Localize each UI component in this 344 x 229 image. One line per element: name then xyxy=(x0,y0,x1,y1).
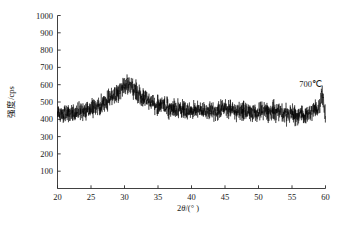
y-tick-label: 800 xyxy=(40,45,53,55)
y-tick-label: 200 xyxy=(40,149,53,159)
x-tick-label: 30 xyxy=(120,192,129,202)
y-axis-title: 强度/cps xyxy=(6,86,16,118)
x-tick-label: 45 xyxy=(221,192,230,202)
y-tick-label: 600 xyxy=(40,80,53,90)
xrd-figure: 1002003004005006007008009001000 20253035… xyxy=(0,0,344,229)
y-tick-label: 100 xyxy=(40,166,53,176)
x-tick-label: 60 xyxy=(321,192,330,202)
y-tick-label: 900 xyxy=(40,28,53,38)
x-tick-label: 50 xyxy=(254,192,263,202)
y-tick-label: 1000 xyxy=(36,11,53,21)
y-tick-label: 300 xyxy=(40,132,53,142)
sample-temperature-annotation: 700℃ xyxy=(299,79,322,89)
y-tick-label: 500 xyxy=(40,97,53,107)
x-tick-label: 55 xyxy=(288,192,297,202)
x-tick-label: 35 xyxy=(154,192,163,202)
x-tick-label: 40 xyxy=(187,192,196,202)
x-tick-label: 25 xyxy=(87,192,96,202)
y-tick-label: 400 xyxy=(40,114,53,124)
x-axis-title: 2θ/(° ) xyxy=(177,203,199,213)
x-tick-label: 20 xyxy=(53,192,62,202)
x-axis-tick-labels: 202530354045505560 xyxy=(53,192,330,202)
y-tick-label: 700 xyxy=(40,62,53,72)
chart-canvas: 1002003004005006007008009001000 20253035… xyxy=(0,0,344,229)
